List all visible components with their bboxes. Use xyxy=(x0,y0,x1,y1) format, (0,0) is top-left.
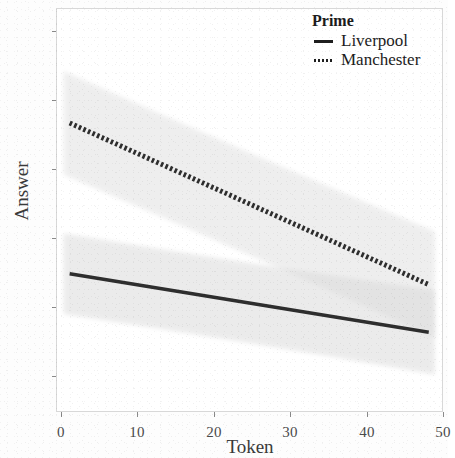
legend-item-label: Manchester xyxy=(341,50,420,70)
legend-title: Prime xyxy=(312,12,420,30)
confidence-bands xyxy=(64,71,435,374)
plot-area xyxy=(57,9,444,413)
solid-line-key xyxy=(312,34,338,48)
legend-item-label: Liverpool xyxy=(341,31,408,51)
legend-item-liverpool[interactable]: Liverpool xyxy=(312,31,420,50)
legend: Prime Liverpool Manchester xyxy=(312,12,420,69)
x-axis-tick-label: 0 xyxy=(41,424,81,441)
x-axis-tick-label: 50 xyxy=(423,424,455,441)
dotted-line-key xyxy=(312,53,338,67)
x-axis-title: Token xyxy=(150,436,350,458)
legend-item-manchester[interactable]: Manchester xyxy=(312,50,420,69)
x-axis-tick-label: 40 xyxy=(347,424,387,441)
y-axis-title: Answer xyxy=(11,146,33,236)
